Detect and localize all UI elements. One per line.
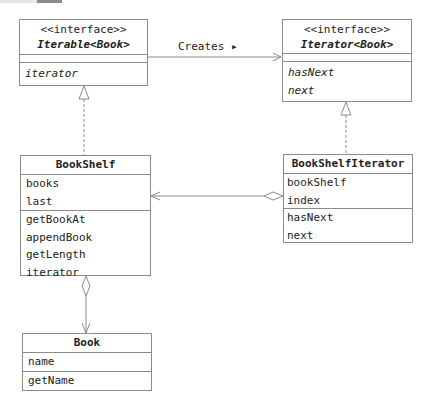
- class-header: <<interface>> Iterator<Book>: [283, 20, 411, 54]
- method: iterator: [26, 264, 150, 282]
- method: getName: [28, 372, 151, 390]
- stereotype: <<interface>>: [283, 22, 411, 37]
- class-name: Iterator<Book>: [283, 37, 411, 52]
- class-name: BookShelfIterator: [284, 155, 412, 173]
- stereotype: <<interface>>: [20, 22, 147, 37]
- attribute: name: [28, 353, 151, 371]
- attribute: index: [287, 192, 412, 210]
- class-header: <<interface>> Iterable<Book>: [20, 20, 147, 55]
- class-header: BookShelfIterator: [284, 155, 412, 174]
- attributes-section: [283, 54, 411, 62]
- attributes-section: name: [23, 353, 151, 372]
- method: hasNext: [288, 64, 411, 82]
- methods-section: hasNext next: [283, 62, 411, 99]
- bsi-aggregation-diamond: [264, 192, 283, 200]
- attributes-section: bookShelf index: [284, 174, 412, 209]
- methods-section: hasNext next: [284, 209, 412, 244]
- attribute: bookShelf: [287, 174, 412, 192]
- methods-section: getBookAt appendBook getLength iterator: [21, 211, 150, 281]
- method: iterator: [25, 65, 147, 83]
- method: appendBook: [26, 229, 150, 247]
- class-name: BookShelf: [21, 156, 150, 174]
- class-header: BookShelf: [21, 156, 150, 175]
- class-header: Book: [23, 334, 151, 353]
- method: getLength: [26, 246, 150, 264]
- attribute: books: [26, 175, 150, 193]
- class-iterator[interactable]: <<interface>> Iterator<Book> hasNext nex…: [282, 19, 412, 102]
- class-name: Book: [23, 334, 151, 352]
- class-name: Iterable<Book>: [20, 37, 147, 52]
- bookshelf-realization-head: [79, 86, 89, 99]
- method: next: [287, 227, 412, 245]
- attributes-section: [20, 55, 147, 63]
- bsi-realization-head: [341, 102, 351, 115]
- class-bookshelf[interactable]: BookShelf books last getBookAt appendBoo…: [20, 155, 151, 276]
- method: next: [288, 82, 411, 100]
- class-iterable[interactable]: <<interface>> Iterable<Book> iterator: [19, 19, 148, 86]
- class-book[interactable]: Book name getName: [22, 333, 152, 391]
- method: hasNext: [287, 209, 412, 227]
- methods-section: getName: [23, 372, 151, 390]
- class-bookshelf-iterator[interactable]: BookShelfIterator bookShelf index hasNex…: [283, 154, 413, 243]
- attribute: last: [26, 193, 150, 211]
- method: getBookAt: [26, 211, 150, 229]
- creates-label: Creates ▸: [178, 40, 238, 54]
- methods-section: iterator: [20, 63, 147, 83]
- attributes-section: books last: [21, 175, 150, 211]
